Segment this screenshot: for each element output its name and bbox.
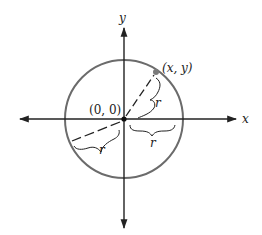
radius-label-upper: r [155,96,162,110]
radius-line-to-point [126,75,154,116]
origin-point [121,116,126,121]
point-xy [153,69,159,75]
origin-label: (0, 0) [89,103,121,117]
brace-x-radius [130,125,175,136]
point-label: (x, y) [162,61,193,75]
y-axis-label: y [118,11,126,25]
circle-diagram: y x (0, 0) (x, y) r r r [0,0,262,235]
brace-lower-left-radius [74,130,119,152]
radius-label-x: r [150,136,157,150]
radius-line-lower-left [72,122,120,141]
x-axis-label: x [242,112,249,126]
